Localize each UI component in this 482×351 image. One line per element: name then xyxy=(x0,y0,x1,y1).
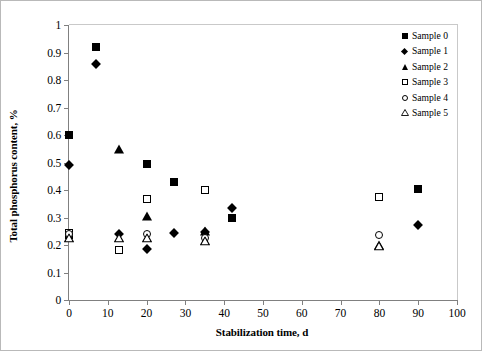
x-axis-tick xyxy=(263,300,264,305)
data-point xyxy=(142,212,152,221)
legend-item-label: Sample 1 xyxy=(412,46,448,56)
legend-item: Sample 5 xyxy=(399,106,448,122)
y-axis-tick-label: 0.8 xyxy=(47,74,61,86)
x-axis-tick-label: 80 xyxy=(374,307,386,319)
data-point xyxy=(169,228,179,238)
open-triangle-icon xyxy=(399,108,410,119)
x-axis-tick xyxy=(108,300,109,305)
data-point xyxy=(142,229,152,238)
x-axis-tick xyxy=(69,300,70,305)
x-axis-tick xyxy=(224,300,225,305)
x-axis-title: Stabilization time, d xyxy=(68,326,456,338)
data-point xyxy=(414,185,422,193)
x-axis-tick xyxy=(185,300,186,305)
legend-item-label: Sample 0 xyxy=(412,31,448,41)
x-axis-tick xyxy=(418,300,419,305)
data-point xyxy=(65,131,73,139)
data-point xyxy=(374,237,384,246)
y-axis-tick xyxy=(64,53,69,54)
y-axis-tick-label: 0.4 xyxy=(47,184,61,196)
x-axis-tick-label: 30 xyxy=(180,307,192,319)
data-point xyxy=(143,195,151,203)
legend-item: Sample 4 xyxy=(399,90,448,106)
open-circle-icon xyxy=(399,92,410,103)
data-point xyxy=(227,203,237,213)
y-axis-tick xyxy=(64,108,69,109)
data-point xyxy=(114,229,124,238)
open-square-icon xyxy=(399,77,410,88)
y-axis-tick-label: 0.2 xyxy=(47,239,61,251)
legend-item-label: Sample 4 xyxy=(412,93,448,103)
x-axis-tick xyxy=(302,300,303,305)
data-point xyxy=(64,160,74,170)
y-axis-tick xyxy=(64,25,69,26)
chart-legend: Sample 0Sample 1Sample 2Sample 3Sample 4… xyxy=(399,28,448,121)
y-axis-tick-label: 0.1 xyxy=(47,267,61,279)
legend-item-label: Sample 3 xyxy=(412,77,448,87)
legend-item-label: Sample 2 xyxy=(412,62,448,72)
y-axis-tick xyxy=(64,273,69,274)
data-point xyxy=(114,144,124,153)
legend-item: Sample 3 xyxy=(399,75,448,91)
plot-right-rule xyxy=(457,24,458,300)
y-axis-tick-label: 0.3 xyxy=(47,212,61,224)
data-point xyxy=(92,43,100,51)
x-axis-tick-label: 50 xyxy=(257,307,269,319)
x-axis-tick-label: 70 xyxy=(335,307,347,319)
data-point xyxy=(115,246,123,254)
x-axis-tick-label: 60 xyxy=(296,307,308,319)
y-axis-tick xyxy=(64,80,69,81)
data-point xyxy=(143,160,151,168)
x-axis-tick-label: 20 xyxy=(141,307,153,319)
y-axis-tick-label: 0 xyxy=(55,294,61,306)
data-point xyxy=(375,193,383,201)
filled-triangle-icon xyxy=(399,61,410,72)
x-axis-tick xyxy=(341,300,342,305)
legend-item-label: Sample 5 xyxy=(412,108,448,118)
y-axis-tick-label: 0.5 xyxy=(47,157,61,169)
x-axis-tick xyxy=(457,300,458,305)
data-point xyxy=(200,232,210,241)
x-axis-tick-label: 40 xyxy=(218,307,230,319)
x-axis-tick xyxy=(147,300,148,305)
y-axis-tick xyxy=(64,245,69,246)
x-axis-tick-label: 10 xyxy=(102,307,114,319)
y-axis-tick-label: 0.6 xyxy=(47,129,61,141)
x-axis-tick-label: 90 xyxy=(412,307,424,319)
filled-diamond-icon xyxy=(399,46,410,57)
plot-top-rule xyxy=(69,24,457,25)
y-axis-tick xyxy=(64,218,69,219)
y-axis-tick-label: 0.7 xyxy=(47,102,61,114)
data-point xyxy=(170,178,178,186)
y-axis-tick-label: 1 xyxy=(55,19,61,31)
data-point xyxy=(413,220,423,230)
legend-item: Sample 0 xyxy=(399,28,448,44)
x-axis-tick-label: 0 xyxy=(66,307,72,319)
y-axis-tick-label: 0.9 xyxy=(47,47,61,59)
data-point xyxy=(228,214,236,222)
legend-item: Sample 2 xyxy=(399,59,448,75)
legend-item: Sample 1 xyxy=(399,44,448,60)
data-point xyxy=(64,228,74,237)
x-axis-tick xyxy=(379,300,380,305)
data-point xyxy=(142,244,152,254)
y-axis-tick xyxy=(64,190,69,191)
chart-figure: Total phosphorus content, % Stabilizatio… xyxy=(0,0,482,351)
data-point xyxy=(91,59,101,69)
x-axis-tick-label: 100 xyxy=(448,307,465,319)
data-point xyxy=(201,186,209,194)
y-axis-title: Total phosphorus content, % xyxy=(7,109,19,242)
filled-square-icon xyxy=(399,30,410,41)
